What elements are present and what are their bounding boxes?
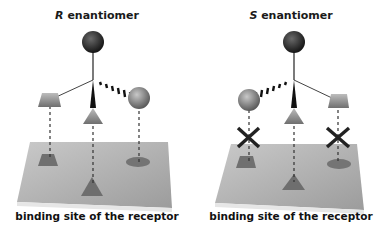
trapezoid-group-icon [328, 94, 349, 108]
receptor-platform [215, 144, 364, 214]
oval-site [327, 159, 351, 169]
side-sphere-icon [128, 87, 150, 109]
receptor-platform [17, 142, 172, 212]
triangle-group-icon [284, 108, 304, 124]
panel-title: S enantiomer [194, 9, 387, 22]
panel-caption: binding site of the receptor [194, 210, 387, 222]
title-rest: enantiomer [257, 9, 332, 22]
hash-bond [100, 82, 131, 99]
side-sphere-icon [238, 89, 260, 111]
title-rest: enantiomer [64, 9, 139, 22]
r-enantiomer-panel: R enantiomer binding site of the recepto… [0, 0, 194, 245]
hash-bond [255, 82, 286, 99]
top-sphere-icon [82, 31, 104, 53]
triangle-group-icon [83, 108, 103, 124]
s-enantiomer-panel: S enantiomer binding site of the recepto… [194, 0, 387, 245]
panel-title: R enantiomer [0, 9, 194, 22]
wedge-bond [291, 80, 297, 108]
oval-site [126, 157, 150, 167]
title-letter: R [55, 9, 63, 22]
top-sphere-icon [283, 31, 305, 53]
wedge-bond [90, 80, 96, 108]
trapezoid-group-icon [38, 93, 61, 107]
s-enantiomer-diagram [194, 0, 387, 245]
panel-caption: binding site of the receptor [0, 210, 194, 222]
r-enantiomer-diagram [0, 0, 194, 245]
